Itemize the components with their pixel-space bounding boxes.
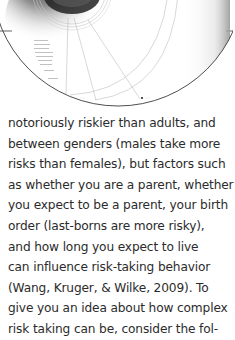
text-line: you expect to be a parent, your birth bbox=[8, 195, 233, 216]
figure-marker bbox=[141, 97, 143, 99]
eye-illustration: ····· ····· bbox=[0, 0, 233, 110]
text-line: between genders (males take more bbox=[8, 134, 233, 155]
text-line: notoriously riskier than adults, and bbox=[8, 113, 233, 134]
text-line: as whether you are a parent, whether bbox=[8, 175, 233, 196]
text-line: order (last-borns are more risky), bbox=[8, 216, 233, 237]
text-line: and how long you expect to live bbox=[8, 237, 233, 258]
figure-label-left: ····· bbox=[80, 96, 85, 100]
text-line: (Wang, Kruger, & Wilke, 2009). To bbox=[8, 278, 233, 299]
text-line: give you an idea about how complex bbox=[8, 298, 233, 319]
eye-diagram: ····· ····· bbox=[0, 0, 233, 110]
body-paragraph: notoriously riskier than adults, and bet… bbox=[8, 113, 233, 340]
text-line: risks than females), but factors such bbox=[8, 154, 233, 175]
text-line: risk taking can be, consider the fol- bbox=[8, 319, 233, 340]
text-line: can influence risk-taking behavior bbox=[8, 257, 233, 278]
figure-label-right: ····· bbox=[145, 96, 150, 100]
